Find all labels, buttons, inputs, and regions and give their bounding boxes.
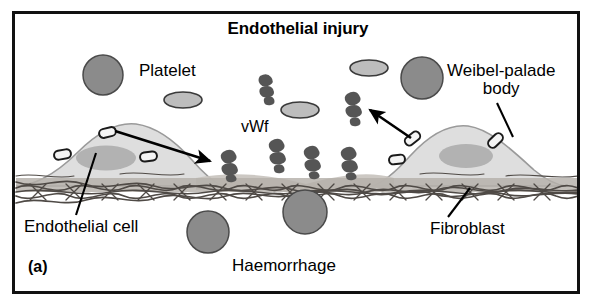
weibel-palade-body-label: Weibel-palade body bbox=[447, 62, 555, 99]
weibel-palade-body-label-line1: Weibel-palade bbox=[447, 61, 555, 80]
platelet-3 bbox=[350, 60, 388, 76]
leader-weibel-palade-body bbox=[497, 103, 513, 137]
panel-letter: (a) bbox=[28, 258, 48, 275]
haemorrhage-label: Haemorrhage bbox=[232, 257, 336, 275]
figure-root: Endothelial injury Platelet vWf Weibel-p… bbox=[0, 0, 596, 306]
platelet-label: Platelet bbox=[139, 62, 196, 80]
wpb-circle-right bbox=[401, 57, 443, 99]
vwf-free-2 bbox=[345, 92, 362, 126]
vwf-free-1 bbox=[259, 74, 275, 105]
wpb-rod-left-mid bbox=[53, 149, 71, 161]
platelet-1 bbox=[164, 92, 202, 108]
nucleus-left bbox=[76, 146, 136, 171]
rbc-1 bbox=[187, 211, 229, 253]
nucleus-right bbox=[439, 144, 493, 168]
weibel-palade-body-label-line2: body bbox=[447, 80, 555, 98]
vwf-bound-4 bbox=[341, 147, 358, 180]
wpb-rod-left-right bbox=[139, 151, 157, 162]
vwf-bound-2 bbox=[269, 139, 286, 173]
vwf-label: vWf bbox=[241, 118, 269, 135]
red-blood-cells bbox=[187, 190, 327, 253]
page-title: Endothelial injury bbox=[0, 20, 596, 38]
arrow-secretion-right bbox=[370, 110, 411, 138]
endothelial-cell-label: Endothelial cell bbox=[24, 218, 138, 236]
vwf-bound-3 bbox=[304, 146, 321, 179]
platelet-2 bbox=[281, 102, 319, 118]
fibroblast-label: Fibroblast bbox=[430, 220, 505, 238]
rbc-2 bbox=[283, 190, 327, 234]
wpb-rod-right-outer bbox=[403, 130, 422, 148]
wpb-rod-right-inner bbox=[389, 154, 406, 165]
wpb-circle-left bbox=[83, 55, 123, 95]
